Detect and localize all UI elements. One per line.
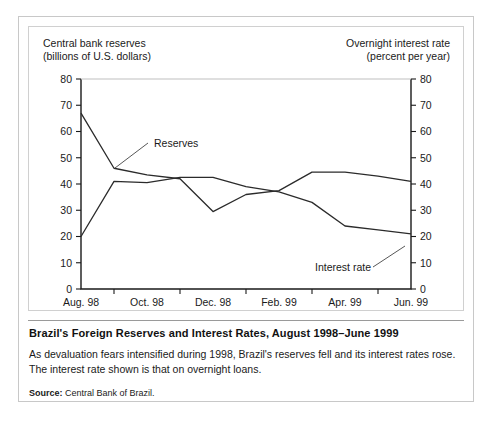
- series-line-reserves: [81, 113, 411, 211]
- figure-caption-body: As devaluation fears intensified during …: [29, 347, 465, 377]
- chart-panel: Central bank reserves(billions of U.S. d…: [28, 26, 464, 311]
- y-axis-tick-label-left: 30: [60, 204, 72, 216]
- y-axis-tick-label-right: 60: [420, 125, 432, 137]
- y-axis-tick-label-right: 80: [420, 73, 432, 85]
- caption-block: Brazil's Foreign Reserves and Interest R…: [29, 327, 465, 398]
- x-axis-tick-label: Dec. 98: [195, 296, 231, 308]
- x-axis-tick-label: Jun. 99: [394, 296, 429, 308]
- x-axis-tick-label: Apr. 99: [328, 296, 361, 308]
- y-axis-tick-label-right: 20: [420, 230, 432, 242]
- y-axis-tick-label-left: 60: [60, 125, 72, 137]
- y-axis-tick-label-left: 20: [60, 230, 72, 242]
- x-axis-tick-label: Feb. 99: [261, 296, 297, 308]
- x-axis-tick-label: Oct. 98: [130, 296, 164, 308]
- y-axis-tick-label-left: 0: [66, 283, 72, 295]
- caption-divider: [28, 320, 464, 321]
- y-axis-tick-label-left: 70: [60, 99, 72, 111]
- y-axis-tick-label-right: 0: [420, 283, 426, 295]
- y-axis-tick-label-left: 80: [60, 73, 72, 85]
- annotation-leader-line: [373, 246, 405, 267]
- source-label: Source:: [29, 388, 63, 398]
- y-axis-tick-label-left: 50: [60, 152, 72, 164]
- y-axis-tick-label-right: 30: [420, 204, 432, 216]
- y-axis-tick-label-right: 70: [420, 99, 432, 111]
- series-annotation-label: Reserves: [154, 137, 198, 149]
- series-line-interest-rate: [81, 177, 411, 236]
- source-text: Central Bank of Brazil.: [65, 388, 155, 398]
- x-axis-tick-label: Aug. 98: [63, 296, 99, 308]
- annotation-leader-line: [115, 143, 148, 168]
- axis-frame: [81, 79, 411, 289]
- figure-caption-title: Brazil's Foreign Reserves and Interest R…: [29, 327, 465, 339]
- y-axis-tick-label-left: 10: [60, 257, 72, 269]
- y-axis-tick-label-right: 50: [420, 152, 432, 164]
- y-axis-tick-label-left: 40: [60, 178, 72, 190]
- line-chart-svg: 0102030405060708001020304050607080Aug. 9…: [29, 27, 463, 310]
- y-axis-tick-label-right: 10: [420, 257, 432, 269]
- figure-source-line: Source: Central Bank of Brazil.: [29, 388, 465, 398]
- y-axis-tick-label-right: 40: [420, 178, 432, 190]
- figure-container: Central bank reserves(billions of U.S. d…: [18, 16, 474, 402]
- series-annotation-label: Interest rate: [315, 261, 371, 273]
